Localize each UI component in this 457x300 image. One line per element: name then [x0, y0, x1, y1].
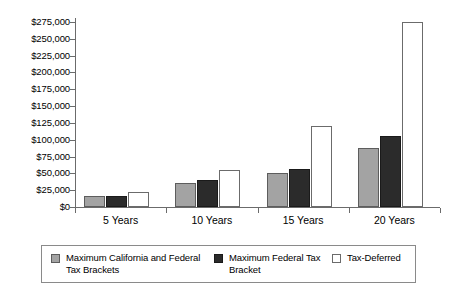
legend-item-tax-deferred: Tax-Deferred	[332, 252, 422, 264]
y-axis-tick-mark	[70, 39, 75, 40]
y-axis-tick-label: $25,000	[0, 185, 70, 195]
legend-swatch-icon	[214, 254, 223, 263]
y-axis-tick-mark	[70, 72, 75, 73]
bar	[84, 196, 105, 207]
legend-item-label: Tax-Deferred	[347, 252, 401, 264]
y-axis-tick-label: $225,000	[0, 51, 70, 61]
legend-item-label: Maximum Federal Tax Bracket	[229, 252, 324, 275]
y-axis-tick-mark	[70, 56, 75, 57]
x-axis-category-label: 10 Years	[166, 214, 257, 226]
y-axis-tick-mark	[70, 89, 75, 90]
y-axis-tick-mark	[70, 190, 75, 191]
x-axis-category-label: 5 Years	[75, 214, 166, 226]
x-axis-category-label: 15 Years	[258, 214, 349, 226]
legend-item-maximum-federal-tax-bracket: Maximum Federal Tax Bracket	[214, 252, 324, 275]
x-axis-tick-mark	[166, 208, 167, 213]
y-axis-tick-mark	[70, 157, 75, 158]
legend-item-label: Maximum California and Federal Tax Brack…	[66, 252, 201, 275]
y-axis-tick-label: $175,000	[0, 84, 70, 94]
y-axis-tick-mark	[70, 106, 75, 107]
x-axis-category-label: 20 Years	[349, 214, 440, 226]
plot-area: $0$25,000$50,000$75,000$100,000$125,000$…	[0, 0, 457, 232]
bar	[289, 169, 310, 207]
y-axis-tick-label: $75,000	[0, 152, 70, 162]
y-axis-tick-label: $125,000	[0, 118, 70, 128]
x-axis-tick-mark	[440, 208, 441, 213]
y-axis-tick-label: $50,000	[0, 168, 70, 178]
y-axis-tick-mark	[70, 123, 75, 124]
bar	[128, 192, 149, 207]
bar	[358, 148, 379, 207]
legend-swatch-icon	[332, 254, 341, 263]
x-axis-tick-mark	[75, 208, 76, 213]
bar-chart: $0$25,000$50,000$75,000$100,000$125,000$…	[0, 0, 457, 300]
legend-item-maximum-california-and-federal-tax-brackets: Maximum California and Federal Tax Brack…	[51, 252, 201, 275]
y-axis-tick-label: $0	[0, 202, 70, 212]
y-axis-tick-label: $100,000	[0, 135, 70, 145]
y-axis-tick-label: $250,000	[0, 34, 70, 44]
y-axis-tick-mark	[70, 140, 75, 141]
x-axis-tick-mark	[258, 208, 259, 213]
y-axis-tick-label: $150,000	[0, 101, 70, 111]
x-axis-tick-mark	[349, 208, 350, 213]
bar	[219, 170, 240, 207]
bar	[197, 180, 218, 207]
y-axis-tick-label: $275,000	[0, 17, 70, 27]
chart-legend: Maximum California and Federal Tax Brack…	[41, 245, 416, 283]
y-axis-tick-mark	[70, 22, 75, 23]
y-axis-tick-label: $200,000	[0, 67, 70, 77]
bar	[106, 196, 127, 207]
bar	[402, 22, 423, 207]
bar	[311, 126, 332, 207]
bar	[267, 173, 288, 207]
y-axis-tick-labels: $0$25,000$50,000$75,000$100,000$125,000$…	[0, 0, 70, 232]
y-axis-tick-mark	[70, 173, 75, 174]
bars-layer	[75, 0, 440, 232]
bar	[380, 136, 401, 207]
legend-swatch-icon	[51, 254, 60, 263]
bar	[175, 183, 196, 207]
